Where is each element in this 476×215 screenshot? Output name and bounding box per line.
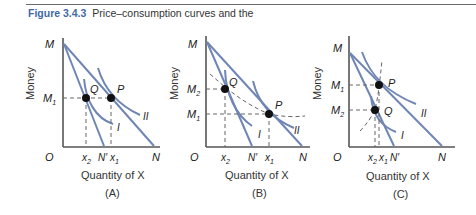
point-q [82,94,90,102]
label-n: N [299,151,307,163]
label-n-prime: N′ [390,152,400,163]
panel-a: M M1 Q P I II O x2 N′ x1 N Money Quantit… [24,38,160,199]
label-curve-ii: II [143,111,149,122]
panel-label-c: (C) [393,188,408,200]
label-x1: x1 [109,152,119,165]
panel-c: M M1 M2 P Q I II O x2 x1 N′ N Money Quan… [311,36,455,200]
label-x1: x1 [378,152,388,165]
y-axis-title: Money [24,66,36,100]
y-axis-title: Money [168,66,180,100]
label-x1: x1 [264,152,274,165]
budget-line-mn [350,53,442,146]
label-n-prime: N′ [98,152,108,163]
panel-label-a: (A) [105,187,120,199]
label-n-prime: N′ [248,152,258,163]
label-origin: O [333,151,342,163]
label-x2: x2 [81,152,91,165]
label-x2: x2 [220,152,230,165]
label-curve-i: I [401,130,404,141]
label-origin: O [190,151,199,163]
x-axis-title: Quantity of X [225,169,289,181]
diagram-canvas: M M1 Q P I II O x2 N′ x1 N Money Quantit… [0,0,476,215]
panel-b: M M2 M1 Q P I II O x2 N′ x1 N Money Quan… [168,36,310,199]
label-n: N [152,151,160,163]
label-n: N [438,151,446,163]
label-m: M [45,38,55,50]
y-axis-title: Money [311,66,323,100]
x-axis-title: Quantity of X [81,169,145,181]
point-p [375,81,383,89]
label-p: P [275,99,283,111]
label-m2: M2 [331,104,344,118]
label-m1: M1 [331,79,344,93]
label-origin: O [45,151,54,163]
label-p: P [117,83,125,95]
label-m2: M2 [187,83,200,97]
label-curve-i: I [117,122,120,133]
label-x2: x2 [367,152,377,165]
label-m1: M1 [187,108,200,122]
x-axis-title: Quantity of X [366,170,430,182]
label-q: Q [90,83,99,95]
point-p [265,110,273,118]
label-q: Q [384,105,393,117]
label-m: M [333,42,343,54]
point-p [107,94,115,102]
label-p: P [388,77,396,89]
label-curve-ii: II [294,125,300,136]
indifference-curve-ii [253,81,294,128]
label-curve-ii: II [421,108,427,119]
budget-line-mn [207,42,302,146]
panel-label-b: (B) [252,187,267,199]
label-m: M [188,38,198,50]
point-q [221,85,229,93]
label-m1: M1 [43,92,56,106]
label-q: Q [229,76,238,88]
label-curve-i: I [258,129,261,140]
point-q [371,106,379,114]
